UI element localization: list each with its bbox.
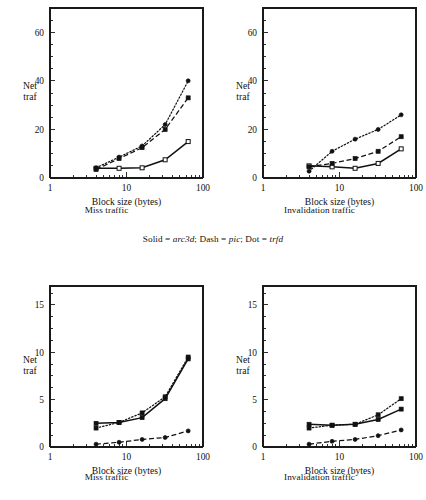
data-point-pic bbox=[307, 165, 311, 169]
data-point-arc3d bbox=[376, 161, 380, 165]
y-axis-tick-label: 15 bbox=[248, 300, 258, 310]
series-line-pic bbox=[96, 98, 188, 170]
data-point-arc3d bbox=[140, 166, 144, 170]
series-line-trfd bbox=[309, 115, 401, 171]
y-axis-tick-label: 20 bbox=[35, 125, 45, 135]
caption-bottom-right: Invalidation traffic bbox=[213, 472, 426, 482]
x-axis-tick-label: 100 bbox=[409, 183, 423, 193]
legend-text: Solid = arc3d; Dash = pic; Dot = trfd bbox=[0, 234, 426, 244]
x-axis-tick-label: 100 bbox=[196, 452, 210, 462]
data-point-trfd bbox=[376, 413, 380, 417]
data-point-arc3d bbox=[117, 166, 121, 170]
legend-solid-name: arc3d bbox=[173, 234, 195, 244]
data-point-pic bbox=[353, 437, 357, 441]
data-point-arc3d bbox=[307, 422, 311, 426]
data-point-pic bbox=[330, 161, 334, 165]
data-point-trfd bbox=[307, 169, 311, 173]
legend-dash-name: pic bbox=[229, 234, 241, 244]
plot-frame bbox=[263, 286, 416, 447]
data-point-pic bbox=[117, 440, 121, 444]
data-point-trfd bbox=[353, 137, 357, 141]
chart-panel-bottom-right: 051015110100Block size (bytes)Nettraf bbox=[213, 262, 426, 467]
data-point-trfd bbox=[330, 423, 334, 427]
x-axis-tick-label: 10 bbox=[335, 452, 345, 462]
data-point-pic bbox=[353, 157, 357, 161]
y-axis-title-line2: traf bbox=[23, 365, 37, 376]
x-axis-tick-label: 10 bbox=[335, 183, 345, 193]
caption-bottom-left: Miss traffic bbox=[0, 472, 213, 482]
data-point-pic bbox=[163, 436, 167, 440]
data-point-trfd bbox=[399, 113, 403, 117]
data-point-arc3d bbox=[376, 418, 380, 422]
chart-svg-top-left: 0204060110100Block size (bytes)Nettraf bbox=[0, 0, 213, 200]
chart-svg-bottom-left: 051015110100Block size (bytes)Nettraf bbox=[0, 262, 213, 467]
data-point-arc3d bbox=[94, 421, 98, 425]
chart-svg-top-right: 0204060110100Block size (bytes)Nettraf bbox=[213, 0, 426, 200]
legend-mid-2: ; Dot = bbox=[240, 234, 269, 244]
data-point-trfd bbox=[399, 397, 403, 401]
data-point-trfd bbox=[186, 79, 190, 83]
y-axis-tick-label: 0 bbox=[252, 442, 257, 452]
y-axis-tick-label: 60 bbox=[248, 28, 258, 38]
caption-top-left: Miss traffic bbox=[0, 205, 213, 215]
x-axis-tick-label: 10 bbox=[122, 452, 132, 462]
legend-solid-prefix: Solid = bbox=[143, 234, 173, 244]
y-axis-tick-label: 20 bbox=[248, 125, 258, 135]
data-point-trfd bbox=[94, 426, 98, 430]
data-point-pic bbox=[376, 149, 380, 153]
data-point-pic bbox=[186, 96, 190, 100]
data-point-pic bbox=[307, 442, 311, 446]
data-point-trfd bbox=[94, 166, 98, 170]
data-point-trfd bbox=[117, 155, 121, 159]
y-axis-tick-label: 15 bbox=[35, 300, 45, 310]
data-point-trfd bbox=[307, 426, 311, 430]
data-point-pic bbox=[399, 428, 403, 432]
chart-panel-top-right: 0204060110100Block size (bytes)Nettraf bbox=[213, 0, 426, 200]
data-point-trfd bbox=[163, 123, 167, 127]
data-point-pic bbox=[163, 127, 167, 131]
series-line-trfd bbox=[96, 81, 188, 168]
x-axis-tick-label: 1 bbox=[261, 452, 266, 462]
legend-mid-1: ; Dash = bbox=[194, 234, 228, 244]
y-axis-title-line2: traf bbox=[236, 365, 250, 376]
y-axis-tick-label: 60 bbox=[35, 28, 45, 38]
y-axis-tick-label: 0 bbox=[39, 442, 44, 452]
legend-dot-name: trfd bbox=[270, 234, 284, 244]
data-point-arc3d bbox=[399, 407, 403, 411]
data-point-trfd bbox=[330, 149, 334, 153]
series-line-pic bbox=[309, 430, 401, 444]
data-point-pic bbox=[140, 437, 144, 441]
plot-frame bbox=[50, 286, 203, 447]
y-axis-tick-label: 0 bbox=[252, 173, 257, 183]
data-point-trfd bbox=[140, 411, 144, 415]
figure-root: 0204060110100Block size (bytes)Nettraf 0… bbox=[0, 0, 426, 500]
data-point-trfd bbox=[376, 127, 380, 131]
data-point-trfd bbox=[163, 395, 167, 399]
data-point-trfd bbox=[140, 144, 144, 148]
data-point-pic bbox=[399, 135, 403, 139]
data-point-trfd bbox=[117, 420, 121, 424]
data-point-trfd bbox=[353, 422, 357, 426]
data-point-pic bbox=[94, 442, 98, 446]
x-axis-tick-label: 100 bbox=[409, 452, 423, 462]
chart-panel-bottom-left: 051015110100Block size (bytes)Nettraf bbox=[0, 262, 213, 467]
x-axis-tick-label: 10 bbox=[122, 183, 132, 193]
plot-frame bbox=[50, 8, 203, 178]
data-point-arc3d bbox=[186, 140, 190, 144]
y-axis-title-line1: Net bbox=[236, 80, 250, 91]
data-point-arc3d bbox=[140, 416, 144, 420]
y-axis-title-line1: Net bbox=[236, 354, 250, 365]
x-axis-tick-label: 100 bbox=[196, 183, 210, 193]
x-axis-tick-label: 1 bbox=[48, 183, 53, 193]
y-axis-tick-label: 5 bbox=[39, 395, 44, 405]
y-axis-title-line1: Net bbox=[23, 80, 37, 91]
x-axis-tick-label: 1 bbox=[48, 452, 53, 462]
y-axis-title-line1: Net bbox=[23, 354, 37, 365]
chart-panel-top-left: 0204060110100Block size (bytes)Nettraf bbox=[0, 0, 213, 200]
y-axis-tick-label: 0 bbox=[39, 173, 44, 183]
y-axis-tick-label: 5 bbox=[252, 395, 257, 405]
x-axis-tick-label: 1 bbox=[261, 183, 266, 193]
data-point-arc3d bbox=[163, 158, 167, 162]
data-point-pic bbox=[376, 434, 380, 438]
data-point-pic bbox=[330, 439, 334, 443]
